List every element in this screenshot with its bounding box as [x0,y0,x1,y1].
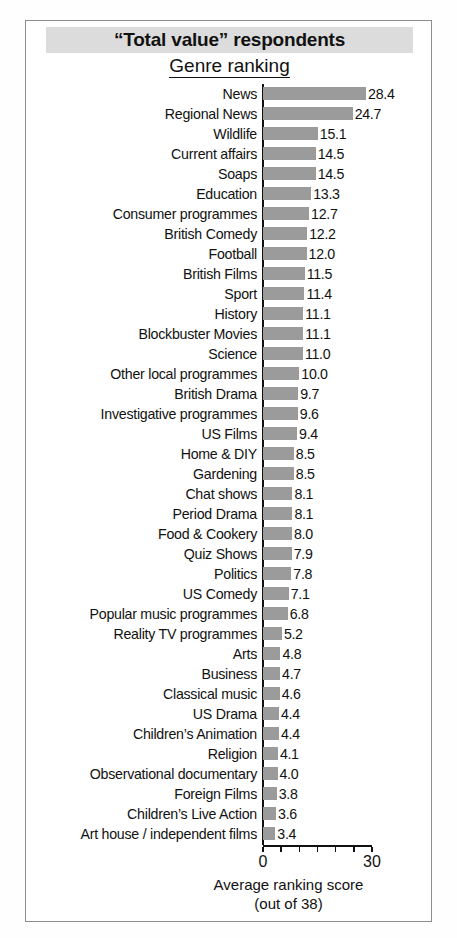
bar-value-label: 3.6 [278,804,297,824]
bar [263,407,298,420]
bar-value-label: 4.0 [280,764,299,784]
bar-row: US Comedy7.1 [26,584,431,604]
category-label: British Drama [26,384,261,404]
bar-value-label: 11.1 [305,304,330,324]
bar-value-label: 3.8 [279,784,298,804]
bar [263,527,292,540]
category-label: US Films [26,424,261,444]
bar-row: Classical music4.6 [26,684,431,704]
bar [263,147,316,160]
category-label: Home & DIY [26,444,261,464]
bar-row: Religion4.1 [26,744,431,764]
bar [263,327,303,340]
bar-value-label: 8.1 [294,484,313,504]
bar [263,667,280,680]
category-label: Business [26,664,261,684]
bar-row: Quiz Shows7.9 [26,544,431,564]
bar [263,107,353,120]
x-axis-title-line2: (out of 38) [146,894,431,913]
bar-value-label: 4.6 [282,684,301,704]
bar [263,607,288,620]
category-label: Art house / independent films [26,824,261,844]
category-label: Quiz Shows [26,544,261,564]
x-axis-tick-label: 30 [352,853,392,871]
bar-row: Foreign Films3.8 [26,784,431,804]
bar [263,727,279,740]
bar-value-label: 4.4 [281,724,300,744]
bar [263,427,297,440]
bar [263,207,309,220]
bar-row: Chat shows8.1 [26,484,431,504]
bar-row: Reality TV programmes5.2 [26,624,431,644]
bar [263,567,291,580]
category-label: Sport [26,284,261,304]
bar [263,807,276,820]
bar-row: Period Drama8.1 [26,504,431,524]
bar-value-label: 12.0 [309,244,335,264]
bar [263,307,303,320]
bar-value-label: 4.1 [280,744,299,764]
category-label: Classical music [26,684,261,704]
bar-row: Soaps14.5 [26,164,431,184]
category-label: Education [26,184,261,204]
bar-row: Popular music programmes6.8 [26,604,431,624]
bar [263,267,305,280]
bar-row: Observational documentary4.0 [26,764,431,784]
category-label: News [26,84,261,104]
bar-value-label: 4.7 [282,664,301,684]
bar [263,827,275,840]
category-label: British Films [26,264,261,284]
category-label: Football [26,244,261,264]
bar-value-label: 14.5 [318,164,344,184]
bar [263,367,299,380]
bar-value-label: 3.4 [277,824,296,844]
category-label: US Comedy [26,584,261,604]
chart-title: “Total value” respondents [46,27,413,53]
bar-value-label: 24.7 [355,104,381,124]
bar [263,507,292,520]
bar [263,247,307,260]
bar [263,707,279,720]
bar [263,747,278,760]
bar [263,387,298,400]
bar-value-label: 12.7 [311,204,337,224]
figure-frame: “Total value” respondents Genre ranking … [25,20,432,922]
category-label: Chat shows [26,484,261,504]
bar-value-label: 4.4 [281,704,300,724]
bar [263,487,292,500]
category-label: Observational documentary [26,764,261,784]
x-axis-title: Average ranking score (out of 38) [146,875,431,913]
bar-value-label: 11.1 [305,324,330,344]
bar-row: Wildlife15.1 [26,124,431,144]
bar-value-label: 8.0 [294,524,313,544]
bar-value-label: 12.2 [309,224,335,244]
bar-value-label: 7.1 [291,584,310,604]
bar-row: Education13.3 [26,184,431,204]
bar [263,227,307,240]
chart-subtitle: Genre ranking [46,54,413,78]
bar-row: Consumer programmes12.7 [26,204,431,224]
x-axis-tick-label: 0 [243,853,283,871]
category-label: Food & Cookery [26,524,261,544]
bar-row: Business4.7 [26,664,431,684]
bar-row: Football12.0 [26,244,431,264]
bar-row: Art house / independent films3.4 [26,824,431,844]
bar-value-label: 9.4 [299,424,318,444]
bar [263,347,303,360]
bar-row: Other local programmes10.0 [26,364,431,384]
chart-subtitle-text: Genre ranking [169,55,289,78]
bar-value-label: 8.5 [296,464,315,484]
bar [263,187,311,200]
bar [263,127,318,140]
bar [263,687,280,700]
bar-value-label: 11.0 [305,344,330,364]
bar [263,87,366,100]
bar-value-label: 7.9 [294,544,313,564]
bar [263,447,294,460]
category-label: Other local programmes [26,364,261,384]
bar-row: British Comedy12.2 [26,224,431,244]
bar-value-label: 7.8 [293,564,312,584]
x-axis-tick [317,847,319,852]
plot-area: Average ranking score (out of 38) News28… [26,83,431,853]
category-label: Current affairs [26,144,261,164]
